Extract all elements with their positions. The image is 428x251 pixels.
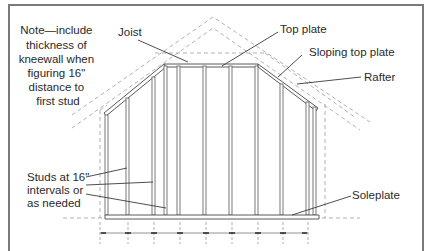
sloping-top-plate-label: Sloping top plate: [309, 46, 395, 58]
kneewall-framing-diagram: Note—include thickness of kneewall when …: [0, 0, 428, 251]
top-plate-label: Top plate: [280, 23, 327, 35]
soleplate: [105, 215, 319, 219]
joist-label: Joist: [118, 26, 142, 38]
rafter-leader: [297, 77, 361, 84]
left-sloping-top-plate: [104, 64, 166, 116]
top-plate-leader: [222, 32, 278, 66]
studs-leader-2: [86, 182, 153, 185]
studs-label: Studs at 16" intervals or as needed: [27, 171, 92, 209]
soleplate-label: Soleplate: [352, 189, 400, 201]
soleplate-leader: [292, 196, 351, 215]
stud-spacing-dimensions: [100, 222, 308, 244]
top-plates: [104, 64, 318, 116]
kneewall-note: Note—include thickness of kneewall when …: [19, 24, 98, 107]
rafter-label: Rafter: [364, 71, 395, 83]
